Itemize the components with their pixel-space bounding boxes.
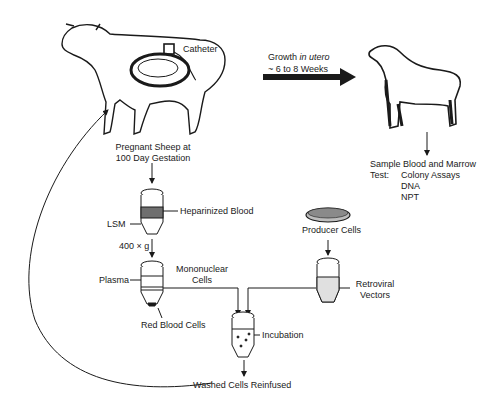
test-npt: NPT bbox=[401, 192, 419, 203]
tube-heparinized-blood bbox=[141, 189, 163, 234]
tube-incubation bbox=[232, 312, 254, 357]
mononuclear-cells-label: Mononuclear Cells bbox=[172, 264, 232, 286]
sample-label: Sample Blood and Marrow bbox=[370, 159, 476, 170]
test-label: Test: bbox=[370, 170, 389, 181]
catheter-label: Catheter bbox=[183, 44, 218, 55]
washed-cells-label: Washed Cells Reinfused bbox=[193, 380, 291, 391]
heparinized-blood-label: Heparinized Blood bbox=[180, 206, 254, 217]
red-blood-cells-label: Red Blood Cells bbox=[141, 320, 206, 331]
test-dna: DNA bbox=[401, 181, 420, 192]
lsm-label: LSM bbox=[107, 219, 126, 230]
growth-label: Growth in utero bbox=[268, 52, 330, 63]
retroviral-vectors-label: Retroviral Vectors bbox=[350, 279, 400, 301]
tube-retroviral-vectors bbox=[317, 258, 339, 302]
lamb-illustration bbox=[369, 46, 460, 128]
growth-duration: ~ 6 to 8 Weeks bbox=[268, 64, 328, 75]
tube-separated bbox=[141, 261, 163, 306]
incubation-label: Incubation bbox=[262, 330, 304, 341]
plasma-label: Plasma bbox=[99, 275, 129, 286]
test-colony-assays: Colony Assays bbox=[401, 170, 460, 181]
producer-cells-label: Producer Cells bbox=[302, 225, 361, 236]
centrifuge-label: 400 × g bbox=[119, 241, 149, 252]
pregnant-sheep-illustration bbox=[62, 24, 225, 134]
pregnant-sheep-label: Pregnant Sheep at 100 Day Gestation bbox=[110, 142, 196, 164]
petri-dish-producer-cells bbox=[306, 208, 350, 222]
